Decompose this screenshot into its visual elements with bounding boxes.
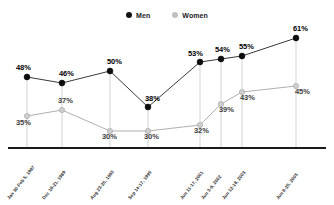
x-tick-label: Aug 23-25, 1993 <box>90 170 115 201</box>
x-tick-label: Jun 6-25, 2005 <box>276 173 299 201</box>
x-tick-label: Jun 3-9, 2002 <box>201 175 223 201</box>
x-tick-label: Sep 14-17, 1995 <box>128 170 153 200</box>
x-tick-label: Jun 12-18, 2003 <box>222 171 247 201</box>
chart-container: Men Women 48%46%50%38%53%54%55%61%35%37%… <box>0 0 334 205</box>
x-tick-label: Dec 18-21, 1989 <box>42 170 67 200</box>
x-axis-tick-layer: Jan 30-Feb 5, 1987Dec 18-21, 1989Aug 23-… <box>0 0 334 205</box>
x-tick-label: Jan 30-Feb 5, 1987 <box>7 165 36 201</box>
